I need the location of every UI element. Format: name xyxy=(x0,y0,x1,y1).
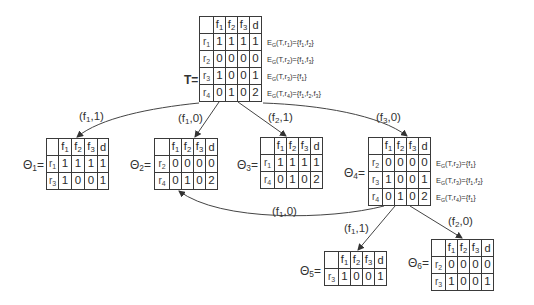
col-header: f3 xyxy=(85,139,98,156)
cell: 1 xyxy=(98,156,109,173)
cell: 0 xyxy=(214,51,226,68)
table-theta5: f1 f2 f3 d r3 1 0 0 1 xyxy=(324,251,387,286)
cell: 0 xyxy=(458,274,470,291)
row-label: r1 xyxy=(200,34,214,51)
table-row: r2 0 0 0 0 xyxy=(432,257,494,274)
table-T: f1 f2 f3 d r1 1 1 1 1 r2 0 0 0 0 r3 1 0 … xyxy=(199,16,262,102)
cell: 1 xyxy=(446,274,458,291)
col-header: f1 xyxy=(214,17,226,34)
cell: 1 xyxy=(182,173,194,190)
table-theta6: f1 f2 f3 d r2 0 0 0 0 r3 1 0 0 1 xyxy=(431,239,494,291)
row-label: r4 xyxy=(200,85,214,102)
edge-label-T-theta1: (f1,1) xyxy=(79,110,104,124)
table-row: r4 0 1 0 2 xyxy=(369,189,431,206)
corner-cell xyxy=(47,139,59,156)
table-label-theta3: Θ3= xyxy=(237,158,258,173)
col-header: f1 xyxy=(170,139,182,156)
cell: 2 xyxy=(206,173,218,190)
col-header: f3 xyxy=(299,138,311,155)
col-header: d xyxy=(482,240,494,257)
cell: 2 xyxy=(419,189,431,206)
corner-cell xyxy=(432,240,446,257)
row-label: r3 xyxy=(200,68,214,85)
cell: 1 xyxy=(299,155,311,172)
col-header: f3 xyxy=(470,240,482,257)
cell: 1 xyxy=(238,34,250,51)
corner-cell xyxy=(325,252,339,269)
edge-label-T-theta4: (f3,0) xyxy=(376,111,401,125)
cell: 0 xyxy=(226,51,238,68)
col-header: f1 xyxy=(59,139,72,156)
table-label-theta5: Θ5= xyxy=(300,264,321,279)
cell: 1 xyxy=(419,172,431,189)
corner-cell xyxy=(261,138,275,155)
row-label: r3 xyxy=(432,274,446,291)
row-label: r3 xyxy=(369,172,383,189)
edge-label-theta4-theta5: (f1,1) xyxy=(344,222,369,236)
table-theta2: f1 f2 f3 d r2 0 0 0 0 r4 0 1 0 2 xyxy=(154,138,218,190)
cell: 1 xyxy=(98,173,109,190)
table-row: r4 0 1 0 2 xyxy=(200,85,262,102)
col-header: f3 xyxy=(238,17,250,34)
col-header: f3 xyxy=(363,252,375,269)
table-row: r4 0 1 0 2 xyxy=(261,172,323,189)
table-row: r3 1 0 0 1 xyxy=(200,68,262,85)
cell: 0 xyxy=(238,51,250,68)
cell: 0 xyxy=(395,155,407,172)
col-header: f2 xyxy=(458,240,470,257)
row-label: r1 xyxy=(261,155,275,172)
eg-annotation: EG(T,r4)={f1} xyxy=(436,193,476,203)
col-header: d xyxy=(206,139,218,156)
cell: 0 xyxy=(85,173,98,190)
table-label-T: T= xyxy=(184,73,198,87)
cell: 1 xyxy=(59,173,72,190)
cell: 0 xyxy=(299,172,311,189)
eg-annotation: EG(T,r2)={f1,f3} xyxy=(267,55,314,65)
cell: 1 xyxy=(250,34,262,51)
edge-label-theta4-theta2: (f1,0) xyxy=(272,205,297,219)
cell: 0 xyxy=(470,257,482,274)
col-header: f2 xyxy=(395,138,407,155)
cell: 0 xyxy=(407,155,419,172)
decision-tree-diagram: (f1,1) (f1,0) (f2,1) (f3,0) (f1,0) (f1,1… xyxy=(0,0,534,305)
table-label-theta2: Θ2= xyxy=(130,158,151,173)
cell: 0 xyxy=(446,257,458,274)
table-row: r3 1 0 0 1 xyxy=(325,269,387,286)
row-label: r4 xyxy=(155,173,170,190)
edge-label-T-theta3: (f2,1) xyxy=(268,111,293,125)
row-label: r2 xyxy=(155,156,170,173)
cell: 1 xyxy=(226,85,238,102)
cell: 1 xyxy=(214,34,226,51)
cell: 0 xyxy=(214,85,226,102)
col-header: f1 xyxy=(383,138,395,155)
eg-annotation: EG(T,r3)={f1} xyxy=(267,72,307,82)
eg-annotation: EG(T,r4)={f1,f2,f3} xyxy=(267,89,321,99)
cell: 0 xyxy=(470,274,482,291)
cell: 0 xyxy=(419,155,431,172)
cell: 0 xyxy=(72,173,85,190)
col-header: f2 xyxy=(72,139,85,156)
table-row: r1 1 1 1 1 xyxy=(261,155,323,172)
col-header: d xyxy=(250,17,262,34)
eg-annotation: EG(T,r3)={f1,f2} xyxy=(436,176,483,186)
cell: 1 xyxy=(250,68,262,85)
col-header: d xyxy=(419,138,431,155)
cell: 0 xyxy=(363,269,375,286)
row-label: r1 xyxy=(47,156,59,173)
table-label-theta6: Θ6= xyxy=(408,256,429,271)
cell: 1 xyxy=(395,189,407,206)
cell: 0 xyxy=(383,189,395,206)
corner-cell xyxy=(369,138,383,155)
col-header: f1 xyxy=(446,240,458,257)
table-row: r3 1 0 0 1 xyxy=(369,172,431,189)
cell: 1 xyxy=(287,155,299,172)
col-header: f1 xyxy=(275,138,287,155)
cell: 0 xyxy=(206,156,218,173)
cell: 0 xyxy=(395,172,407,189)
table-label-theta1: Θ1= xyxy=(23,158,44,173)
col-header: d xyxy=(311,138,323,155)
cell: 0 xyxy=(226,68,238,85)
row-label: r3 xyxy=(325,269,339,286)
eg-annotation: EG(T,r2)={f1} xyxy=(436,159,476,169)
table-theta3: f1 f2 f3 d r1 1 1 1 1 r4 0 1 0 2 xyxy=(260,137,323,189)
